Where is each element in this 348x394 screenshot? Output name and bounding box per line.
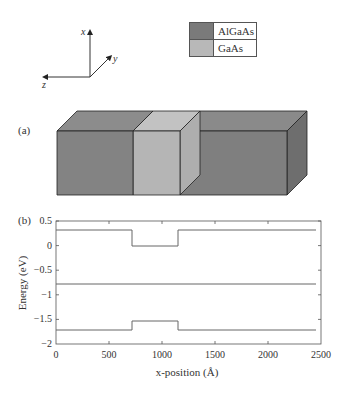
legend-item-gaas: GaAs — [190, 40, 256, 56]
band-diagram-chart: 0.5 0 −0.5 −1 −1.5 −2 0 500 1000 1500 20… — [0, 210, 348, 394]
y-axis-label: y — [112, 53, 118, 64]
x-tick-labels: 0 500 1000 1500 2000 2500 — [54, 349, 332, 360]
x-tick-label: 2000 — [258, 349, 278, 360]
legend-swatch-algaas — [190, 23, 214, 39]
algaas-left-front — [57, 131, 133, 195]
y-tick-label: −0.5 — [34, 264, 52, 275]
x-ticks — [109, 221, 268, 344]
y-tick-label: −2 — [41, 338, 52, 349]
y-tick-labels: 0.5 0 −0.5 −1 −1.5 −2 — [34, 215, 52, 349]
legend-swatch-gaas — [190, 40, 214, 56]
valence-band-line — [56, 321, 316, 330]
x-tick-label: 1500 — [205, 349, 225, 360]
z-axis-label: z — [41, 79, 46, 90]
gaas-front — [133, 131, 180, 195]
coordinate-axes: x y z — [0, 0, 174, 100]
legend-item-algaas: AlGaAs — [190, 23, 256, 40]
x-axis-label: x — [80, 26, 86, 37]
y-tick-label: 0 — [47, 240, 52, 251]
y-tick-label: 0.5 — [40, 215, 53, 226]
legend-label-algaas: AlGaAs — [214, 23, 254, 39]
x-tick-label: 1000 — [152, 349, 172, 360]
legend: AlGaAs GaAs — [189, 22, 257, 57]
heterostructure-3d — [0, 95, 348, 205]
y-tick-label: −1.5 — [34, 313, 52, 324]
y-axis-arrow — [90, 57, 110, 77]
x-axis-title: x-position (Å) — [156, 366, 219, 379]
y-tick-label: −1 — [41, 289, 52, 300]
y-ticks — [56, 221, 321, 319]
legend-label-gaas: GaAs — [214, 40, 243, 56]
plot-frame — [56, 221, 321, 344]
conduction-band-line — [56, 230, 316, 246]
x-tick-label: 500 — [102, 349, 117, 360]
x-tick-label: 0 — [54, 349, 59, 360]
y-axis-title: Energy (eV) — [16, 255, 29, 310]
x-tick-label: 2500 — [311, 349, 331, 360]
